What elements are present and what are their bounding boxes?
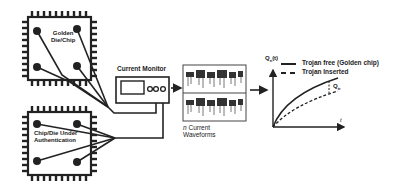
waveforms-line1: Current xyxy=(187,124,210,131)
legend-item-golden: Trojan free (Golden chip) xyxy=(302,59,379,66)
current-monitor-label: Current Monitor xyxy=(117,65,166,72)
y-label-suffix: (t) xyxy=(272,55,278,61)
current-waveforms xyxy=(183,65,246,121)
delta-label: Qtr xyxy=(333,83,341,92)
golden-chip-label: Golden Die/Chip xyxy=(51,30,75,44)
x-axis-label: t xyxy=(340,117,342,124)
golden-curve xyxy=(273,78,338,127)
waveforms-label: n Current Waveforms xyxy=(183,124,216,139)
golden-label-line2: Die/Chip xyxy=(51,37,75,44)
test-label-line2: Authentication xyxy=(34,137,77,144)
test-chip-label: Chip/Die Under Authentication xyxy=(34,130,77,144)
current-monitor xyxy=(116,77,169,103)
waveforms-line2: Waveforms xyxy=(183,131,216,138)
golden-label-line1: Golden xyxy=(51,30,75,37)
test-label-line1: Chip/Die Under xyxy=(34,130,77,137)
delta-sub: tr xyxy=(338,86,341,91)
diagram-canvas xyxy=(0,0,417,190)
trojan-curve xyxy=(273,91,338,127)
legend-item-trojan: Trojan Inserted xyxy=(302,68,349,75)
y-axis-label: Qn(t) xyxy=(265,55,278,64)
golden-chip xyxy=(22,11,97,86)
